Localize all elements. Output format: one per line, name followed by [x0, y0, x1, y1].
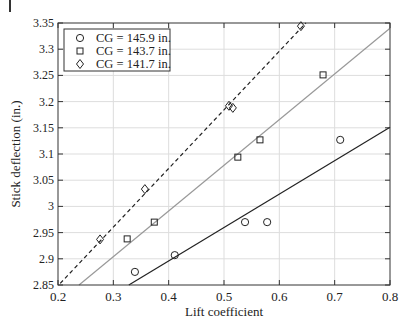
y-tick-label: 2.95 — [33, 226, 54, 240]
y-tick-label: 3.1 — [39, 147, 54, 161]
y-tick-label: 2.85 — [33, 278, 54, 292]
y-tick-label: 2.9 — [39, 252, 54, 266]
y-tick-label: 3 — [48, 199, 54, 213]
legend: CG = 145.9 in.CG = 143.7 in.CG = 141.7 i… — [64, 29, 171, 71]
chart: 0.20.30.40.50.60.70.8 2.852.92.9533.053.… — [0, 0, 413, 330]
y-tick-labels: 2.852.92.9533.053.13.153.23.253.33.35 — [33, 16, 54, 292]
x-tick-label: 0.3 — [105, 289, 121, 304]
x-tick-label: 0.5 — [216, 289, 232, 304]
circle-marker-icon — [337, 136, 344, 143]
circle-marker-icon — [241, 219, 248, 226]
x-axis-label: Lift coefficient — [185, 304, 263, 319]
x-tick-label: 0.6 — [271, 289, 288, 304]
y-tick-label: 3.15 — [33, 121, 54, 135]
x-tick-label: 0.8 — [382, 289, 398, 304]
y-tick-label: 3.05 — [33, 173, 54, 187]
circle-marker-icon — [264, 219, 271, 226]
legend-label: CG = 143.7 in. — [96, 44, 171, 58]
legend-label: CG = 141.7 in. — [96, 57, 171, 71]
y-axis-label: Stick deflection (in.) — [8, 100, 23, 207]
y-tick-label: 3.25 — [33, 68, 54, 82]
square-marker-icon — [320, 72, 326, 78]
legend-label: CG = 145.9 in. — [96, 31, 171, 45]
square-marker-icon — [124, 236, 130, 242]
y-tick-label: 3.3 — [39, 42, 54, 56]
x-tick-labels: 0.20.30.40.50.60.70.8 — [50, 289, 398, 304]
y-tick-label: 3.2 — [39, 95, 54, 109]
y-tick-label: 3.35 — [33, 16, 54, 30]
diamond-marker-icon — [141, 185, 148, 194]
x-tick-label: 0.4 — [161, 289, 178, 304]
diamond-marker-icon — [97, 235, 104, 244]
x-tick-label: 0.7 — [327, 289, 344, 304]
circle-marker-icon — [131, 268, 138, 275]
